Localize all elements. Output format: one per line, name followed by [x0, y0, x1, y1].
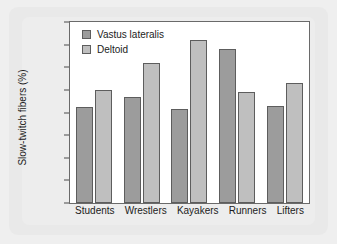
- bar[interactable]: [219, 49, 236, 203]
- y-tick-mark: [64, 157, 69, 158]
- y-tick-mark: [64, 112, 69, 113]
- y-tick-mark: [64, 135, 69, 136]
- legend-item[interactable]: Deltoid: [82, 44, 164, 55]
- figure: Slow-twitch fibers (%) 01020304050607080…: [0, 0, 337, 244]
- y-tick-mark: [64, 44, 69, 45]
- bar[interactable]: [143, 63, 160, 203]
- chart-legend: Vastus lateralisDeltoid: [82, 29, 164, 55]
- bar[interactable]: [95, 90, 112, 203]
- legend-label: Vastus lateralis: [97, 29, 164, 40]
- x-tick-label: Students: [75, 205, 114, 216]
- y-axis-label: Slow-twitch fibers (%): [17, 58, 28, 178]
- bar-group: [219, 22, 255, 203]
- legend-swatch-icon: [82, 30, 91, 39]
- bar[interactable]: [171, 109, 188, 203]
- y-tick-mark: [64, 180, 69, 181]
- x-axis: StudentsWrestlersKayakersRunnersLifters: [70, 205, 309, 216]
- legend-item[interactable]: Vastus lateralis: [82, 29, 164, 40]
- legend-swatch-icon: [82, 45, 91, 54]
- bar-group: [171, 22, 207, 203]
- x-tick-label: Kayakers: [177, 205, 219, 216]
- y-axis: Slow-twitch fibers (%) 01020304050607080: [0, 0, 69, 244]
- x-tick-label: Runners: [229, 205, 267, 216]
- y-tick-mark: [64, 89, 69, 90]
- bar[interactable]: [124, 97, 141, 203]
- bar[interactable]: [76, 107, 93, 203]
- bar-group: [267, 22, 303, 203]
- y-tick-mark: [64, 203, 69, 204]
- bar[interactable]: [190, 40, 207, 203]
- bar[interactable]: [238, 92, 255, 203]
- bar[interactable]: [286, 83, 303, 203]
- y-tick-mark: [64, 22, 69, 23]
- x-tick-label: Lifters: [277, 205, 304, 216]
- y-tick-mark: [64, 67, 69, 68]
- legend-label: Deltoid: [97, 44, 128, 55]
- bar[interactable]: [267, 106, 284, 203]
- x-tick-label: Wrestlers: [125, 205, 167, 216]
